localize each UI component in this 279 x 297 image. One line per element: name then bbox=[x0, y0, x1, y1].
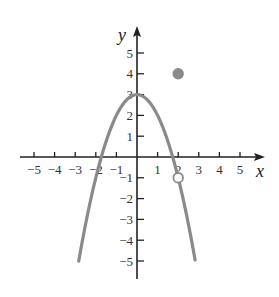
x-tick-label: 3 bbox=[196, 162, 203, 177]
chart-canvas: −5−4−3−2−112345−5−4−3−2−112345 x y bbox=[0, 0, 279, 297]
x-tick-label: −5 bbox=[27, 162, 41, 177]
x-tick-label: 4 bbox=[216, 162, 223, 177]
y-tick-label: −1 bbox=[119, 170, 133, 185]
y-tick-label: 5 bbox=[127, 46, 134, 61]
x-tick-label: −4 bbox=[48, 162, 62, 177]
x-tick-label: 1 bbox=[154, 162, 161, 177]
y-tick-label: −3 bbox=[119, 212, 133, 227]
y-tick-label: −2 bbox=[119, 191, 133, 206]
open-point bbox=[173, 173, 183, 183]
y-tick-label: 1 bbox=[127, 129, 134, 144]
y-axis-label: y bbox=[116, 25, 126, 45]
y-tick-label: 4 bbox=[127, 66, 134, 81]
axes: −5−4−3−2−112345−5−4−3−2−112345 bbox=[20, 26, 265, 279]
x-tick-label: −3 bbox=[68, 162, 82, 177]
x-axis-label: x bbox=[255, 161, 264, 181]
y-tick-label: −4 bbox=[119, 233, 133, 248]
x-tick-label: 5 bbox=[237, 162, 244, 177]
y-tick-label: −5 bbox=[119, 254, 133, 269]
filled-point bbox=[173, 69, 183, 79]
chart: −5−4−3−2−112345−5−4−3−2−112345 x y bbox=[0, 0, 279, 297]
y-tick-label: 2 bbox=[127, 108, 134, 123]
